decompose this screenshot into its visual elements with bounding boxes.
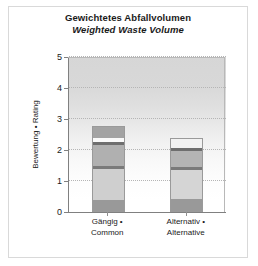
x-tick-mark-2 <box>186 212 187 216</box>
plot-area <box>68 57 226 213</box>
y-tick-label-5: 5 <box>46 52 62 62</box>
y-axis-title-text: Bewertung • Rating <box>31 100 40 169</box>
bar-2[interactable] <box>170 138 203 212</box>
y-tick-mark-2 <box>64 150 68 151</box>
x-tick-label-1-line-1: Gängig • <box>62 217 152 228</box>
y-tick-label-0: 0 <box>46 207 62 217</box>
chart-title-german: Gewichtetes Abfallvolumen <box>8 12 248 24</box>
chart-title-english: Weighted Waste Volume <box>8 24 248 36</box>
y-tick-mark-4 <box>64 88 68 89</box>
y-tick-label-3: 3 <box>46 114 62 124</box>
gridline-y-4 <box>69 87 226 88</box>
x-tick-label-1: Gängig •Common <box>62 217 152 238</box>
y-axis-title: Bewertung • Rating <box>28 57 42 212</box>
gridline-y-5 <box>69 56 226 57</box>
y-tick-mark-3 <box>64 119 68 120</box>
x-tick-label-2-line-2: Alternative <box>141 228 231 239</box>
y-tick-mark-1 <box>64 181 68 182</box>
y-tick-label-2: 2 <box>46 145 62 155</box>
y-tick-mark-5 <box>64 57 68 58</box>
y-tick-label-4: 4 <box>46 83 62 93</box>
x-tick-label-2-line-1: Alternativ • <box>141 217 231 228</box>
y-tick-mark-0 <box>64 212 68 213</box>
x-tick-label-2: Alternativ •Alternative <box>141 217 231 238</box>
x-tick-label-1-line-2: Common <box>62 228 152 239</box>
bar-2-outline <box>170 138 203 212</box>
y-tick-label-1: 1 <box>46 176 62 186</box>
bar-1[interactable] <box>92 126 125 212</box>
chart-title-block: Gewichtetes Abfallvolumen Weighted Waste… <box>8 12 248 36</box>
bar-1-outline <box>92 126 125 212</box>
x-tick-mark-1 <box>107 212 108 216</box>
gridline-y-3 <box>69 118 226 119</box>
chart-figure: Gewichtetes Abfallvolumen Weighted Waste… <box>0 0 258 266</box>
